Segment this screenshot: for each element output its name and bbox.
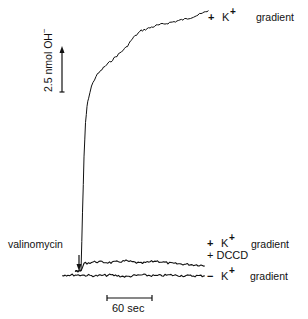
chart-figure: 2.5 nmol OH− valinomycin 60 sec + K + gr… [0, 0, 308, 319]
series-label-minus-k-gradient: − K + gradient [207, 265, 288, 282]
trace-plus-k-gradient-dccd [75, 260, 205, 272]
series-label-sup: + [229, 232, 235, 243]
series-label-sign: − [207, 270, 213, 282]
series-label-ion: K [221, 237, 229, 249]
traces [62, 11, 208, 278]
series-label-sup: + [230, 6, 236, 17]
series-label-plus-k-gradient-top: + K + gradient [208, 6, 294, 23]
y-scale-label: 2.5 nmol OH− [40, 28, 54, 92]
series-label-dccd: + DCCD [207, 249, 248, 261]
x-scale-label: 60 sec [112, 302, 145, 314]
y-scale-label-text: 2.5 nmol OH [42, 33, 54, 92]
series-label-word: gradient [251, 238, 289, 250]
series-label-sign: + [207, 237, 213, 249]
y-scale-label-sup: − [40, 28, 49, 33]
y-scale-arrowhead [60, 46, 65, 53]
series-label-plus-k-gradient-dccd: + K + gradient + DCCD [207, 232, 289, 261]
trace-minus-k-gradient [62, 274, 205, 277]
trace-plus-k-gradient [75, 11, 209, 271]
series-label-ion: K [221, 270, 229, 282]
series-label-ion: K [222, 11, 230, 23]
series-label-sign: + [208, 11, 214, 23]
series-label-word: gradient [256, 11, 294, 23]
series-label-sup: + [229, 265, 235, 276]
series-label-word: gradient [250, 270, 288, 282]
valinomycin-label: valinomycin [8, 238, 63, 250]
